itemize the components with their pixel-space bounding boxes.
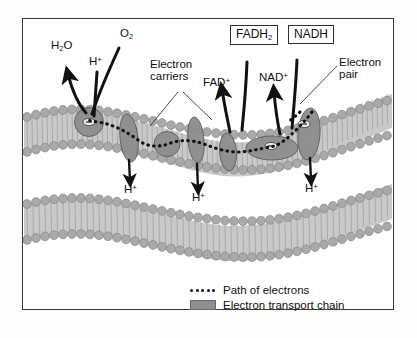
- label-proton-1: H+: [124, 182, 137, 195]
- leader-electron-carriers-b: [183, 92, 212, 120]
- carrier-circle-mid: [154, 132, 180, 157]
- arrow-fad: [222, 90, 230, 132]
- label-nad: NAD+: [259, 70, 288, 83]
- legend-item-electron-transport-chain: Electron transport chain: [190, 298, 370, 312]
- arrow-nadh-in: [292, 60, 297, 128]
- label-oxygen: O2: [120, 27, 133, 43]
- legend-label-path-of-electrons: Path of electrons: [223, 284, 309, 296]
- label-electron-carriers: Electron carriers: [150, 58, 192, 82]
- label-electron-pair: Electron pair: [339, 56, 381, 80]
- diagram-canvas: H2O O2 H+ Electron carriers Electron pai…: [0, 0, 417, 338]
- arrow-nad: [274, 92, 280, 134]
- label-proton-2: H+: [192, 190, 205, 203]
- legend-item-path-of-electrons: Path of electrons: [190, 283, 370, 297]
- legend-label-electron-transport-chain: Electron transport chain: [223, 299, 344, 311]
- arrow-fadh2-in: [242, 62, 247, 130]
- gray-swatch-icon: [190, 300, 216, 310]
- legend: Path of electrons Electron transport cha…: [190, 283, 370, 313]
- label-proton-top: H+: [89, 54, 102, 67]
- upper-membrane-bilayer: [23, 94, 392, 176]
- label-fad: FAD+: [203, 75, 230, 88]
- label-fadh2-box: FADH2: [230, 25, 278, 45]
- label-water: H2O: [51, 39, 72, 55]
- label-proton-3: H+: [305, 181, 318, 194]
- dotted-line-icon: [190, 285, 216, 295]
- leader-electron-pair: [300, 66, 337, 104]
- label-nadh-box: NADH: [288, 25, 334, 44]
- lower-membrane-bilayer: [23, 184, 392, 262]
